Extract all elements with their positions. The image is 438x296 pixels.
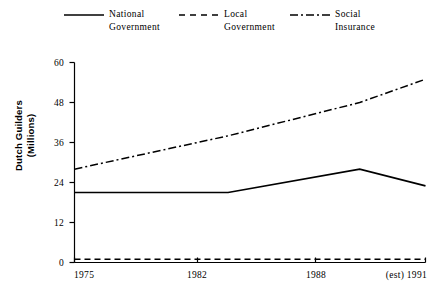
plot-area: 60 48 36 24 12 0 1975 1982 1988 (est) 19… — [0, 0, 438, 296]
y-tick-label-0: 0 — [59, 258, 64, 268]
x-tick-label-1975: 1975 — [74, 270, 94, 280]
y-tick-label-12: 12 — [54, 218, 64, 228]
y-tick-label-36: 36 — [54, 138, 64, 148]
x-tick-label-1982: 1982 — [187, 270, 207, 280]
y-tick-label-60: 60 — [54, 58, 64, 68]
line-chart-figure: National Government Local Government Soc… — [0, 0, 438, 296]
data-series-group — [75, 79, 426, 259]
series-line-social-insurance — [75, 79, 426, 169]
x-tick-label-1991: (est) 1991 — [386, 270, 427, 281]
y-tick-label-24: 24 — [54, 178, 64, 188]
x-tick-label-1988: 1988 — [306, 270, 326, 280]
series-line-national-government — [75, 169, 426, 192]
y-tick-label-48: 48 — [54, 98, 64, 108]
